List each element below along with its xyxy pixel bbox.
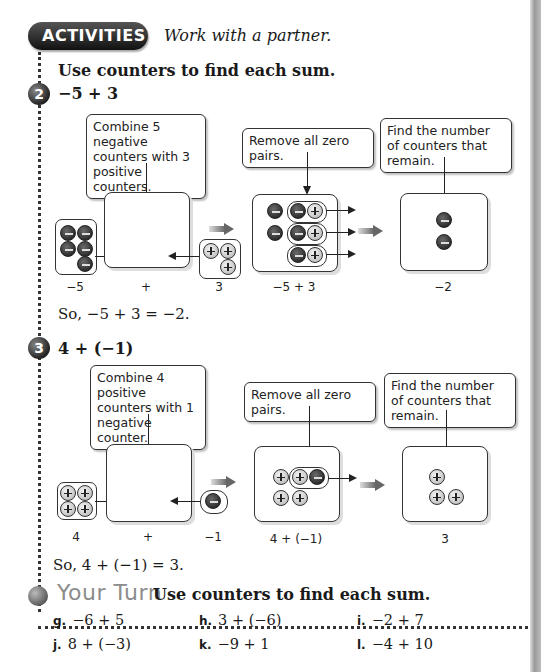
- negative-counter: [267, 225, 283, 241]
- zero-pair: [287, 245, 327, 267]
- label-result: 3: [422, 532, 468, 546]
- process-arrow-icon: [358, 226, 384, 236]
- positive-counters-tray: [57, 482, 97, 520]
- negative-counter: [77, 241, 93, 257]
- positive-counter: [220, 243, 236, 259]
- page-edge: [530, 0, 541, 672]
- negative-counters-tray: [55, 219, 97, 275]
- exercise-l: l.−4 + 10: [357, 636, 433, 652]
- arrow-left-icon: [170, 497, 178, 505]
- activity-expression: −5 + 3: [58, 84, 118, 103]
- label-left: 4: [57, 530, 95, 544]
- activities-label: ACTIVITIES: [42, 26, 146, 45]
- arrow-left-icon: [168, 252, 176, 260]
- positive-counter: [220, 259, 236, 275]
- zero-pair: [287, 223, 327, 245]
- mat-result: [400, 193, 488, 271]
- negative-counter: [267, 203, 283, 219]
- negative-counter: [60, 241, 76, 257]
- mat-combine: [106, 444, 192, 522]
- your-turn-ball-icon: [28, 586, 48, 606]
- negative-counter: [436, 234, 452, 250]
- label-left: −5: [55, 280, 95, 294]
- your-turn-instruction: Use counters to find each sum.: [153, 585, 430, 604]
- instruction: Use counters to find each sum.: [58, 61, 335, 80]
- negative-counter: [60, 225, 76, 241]
- conclusion: So, −5 + 3 = −2.: [58, 305, 190, 323]
- negative-counter: [77, 225, 93, 241]
- label-middle: −5 + 3: [262, 280, 326, 294]
- exercise-k: k.−9 + 1: [199, 636, 270, 652]
- label-right: −1: [200, 530, 226, 544]
- process-arrow-icon: [211, 477, 237, 487]
- activity-number-badge: 3: [28, 337, 50, 359]
- label-right: 3: [207, 280, 231, 294]
- mat-result: [402, 446, 488, 522]
- exercise-g: g.−6 + 5: [53, 612, 124, 628]
- mat-zero-pairs: [254, 446, 340, 522]
- label-result: −2: [420, 280, 466, 294]
- negative-counters-tray: [200, 490, 228, 514]
- process-arrow-icon: [209, 224, 235, 234]
- label-plus: +: [134, 280, 158, 294]
- label-plus: +: [136, 530, 160, 544]
- exercise-j: j.8 + (−3): [53, 636, 131, 652]
- callout-remain: Find the number of counters that remain.: [384, 373, 516, 428]
- negative-counter: [436, 212, 452, 228]
- your-turn-title: Your Turn: [57, 580, 162, 605]
- negative-counter: [77, 256, 93, 272]
- label-middle: 4 + (−1): [264, 532, 328, 546]
- zero-pair: [289, 467, 329, 489]
- exercise-i: i.−2 + 7: [357, 612, 424, 628]
- zero-pair: [287, 201, 327, 223]
- conclusion: So, 4 + (−1) = 3.: [53, 556, 184, 574]
- activity-number-badge: 2: [28, 83, 50, 105]
- activity-expression: 4 + (−1): [58, 339, 133, 358]
- positive-counter: [203, 243, 219, 259]
- activities-badge: ACTIVITIES: [28, 22, 148, 50]
- dotted-border-left: [38, 52, 41, 612]
- positive-counters-tray: [199, 239, 241, 279]
- exercise-h: h.3 + (−6): [199, 612, 281, 628]
- callout-remain: Find the number of counters that remain.: [380, 118, 512, 173]
- subtitle: Work with a partner.: [164, 26, 331, 45]
- process-arrow-icon: [360, 480, 386, 490]
